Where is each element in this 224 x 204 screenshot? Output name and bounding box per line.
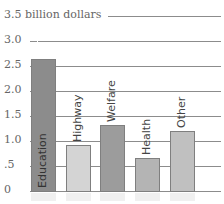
gridline xyxy=(38,116,221,117)
bar-label-highway: Highway xyxy=(71,94,84,142)
gridline-3.5 xyxy=(108,16,221,17)
bar-other xyxy=(170,131,195,192)
y-tick-label: 2.0 xyxy=(4,84,22,96)
bar-reflection xyxy=(31,193,56,201)
bar-chart: 3.5 billion dollars3.02.52.01.51.0.50Edu… xyxy=(0,0,224,204)
y-tick-label: 3.0 xyxy=(4,34,22,46)
y-tick-label: 0 xyxy=(4,184,11,196)
bar-highway xyxy=(66,145,91,192)
bar-reflection xyxy=(100,193,125,201)
bar-reflection xyxy=(170,193,195,201)
bar-label-education: Education xyxy=(36,133,49,188)
y-tick-label: 1.5 xyxy=(4,109,22,121)
bar-label-welfare: Welfare xyxy=(105,80,118,122)
bar-reflection xyxy=(66,193,91,201)
bar-reflection xyxy=(135,193,160,201)
gridline xyxy=(38,41,221,42)
y-axis-unit-label: 3.5 billion dollars xyxy=(4,9,101,21)
y-tick-label: 2.5 xyxy=(4,59,22,71)
y-tick-label: .5 xyxy=(4,159,15,171)
bar-label-health: Health xyxy=(140,119,153,155)
bar-welfare xyxy=(100,125,125,192)
bar-health xyxy=(135,158,160,192)
gridline xyxy=(38,66,221,67)
gridline xyxy=(38,91,221,92)
y-tick-label: 1.0 xyxy=(4,134,22,146)
y-tick-mark xyxy=(30,41,37,42)
bar-label-other: Other xyxy=(175,97,188,128)
